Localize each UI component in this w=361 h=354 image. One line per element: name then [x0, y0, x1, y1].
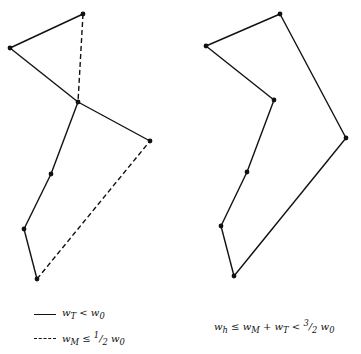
solid-edge — [234, 138, 346, 276]
solid-edge — [24, 174, 51, 229]
vertex-dot — [344, 136, 349, 141]
vertex-dot — [8, 46, 13, 51]
legend-dashed: wM ≤ 1/2 w0 — [34, 330, 125, 347]
tree-diagram — [0, 0, 361, 354]
solid-edge — [24, 229, 37, 279]
solid-edge — [51, 102, 78, 174]
solid-edge — [221, 172, 247, 226]
vertex-dot — [148, 139, 153, 144]
solid-edge — [247, 100, 274, 172]
vertex-dot — [245, 170, 250, 175]
right-figure — [204, 12, 349, 279]
solid-edge — [206, 14, 280, 46]
dashed-edge — [37, 141, 150, 279]
right-caption: wh ≤ wM + wT < 3/2 w0 — [214, 318, 334, 335]
vertex-dot — [81, 12, 86, 17]
solid-edge — [78, 102, 150, 141]
legend-solid-label: wT < w0 — [62, 307, 105, 321]
dashed-edge — [78, 14, 83, 102]
vertex-dot — [272, 98, 277, 103]
solid-edge — [10, 14, 83, 48]
vertex-dot — [49, 172, 54, 177]
vertex-dot — [22, 227, 27, 232]
legend-solid: wT < w0 — [34, 307, 105, 321]
solid-edge — [206, 46, 274, 100]
solid-edge — [280, 14, 346, 138]
solid-edge — [10, 48, 78, 102]
solid-line-swatch — [34, 314, 56, 315]
dashed-line-swatch — [34, 338, 56, 339]
left-figure — [8, 12, 153, 282]
vertex-dot — [35, 277, 40, 282]
legend-dashed-label: wM ≤ 1/2 w0 — [62, 330, 125, 347]
vertex-dot — [232, 274, 237, 279]
vertex-dot — [219, 224, 224, 229]
vertex-dot — [204, 44, 209, 49]
vertex-dot — [76, 100, 81, 105]
solid-edge — [221, 226, 234, 276]
vertex-dot — [278, 12, 283, 17]
